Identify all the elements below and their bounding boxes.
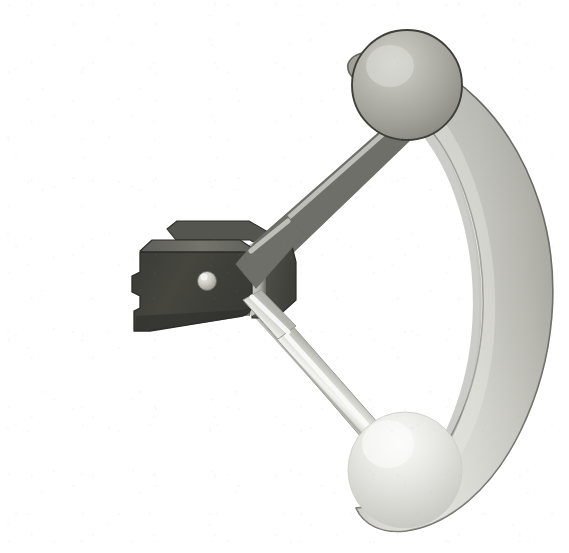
upper-ball-sphere xyxy=(352,30,462,140)
pivot-pin-body xyxy=(198,272,217,291)
pivot-pin-specular xyxy=(200,273,207,280)
mechanical-assembly-illustration: Mechanical control lever assembly Dark g… xyxy=(0,0,569,553)
lower-ball-specular xyxy=(362,420,414,468)
pivot-pin xyxy=(198,272,217,291)
figure-root: Mechanical control lever assembly Dark g… xyxy=(0,0,569,553)
lower-ball xyxy=(348,412,462,528)
upper-ball xyxy=(352,30,462,140)
upper-ball-specular xyxy=(366,45,414,87)
